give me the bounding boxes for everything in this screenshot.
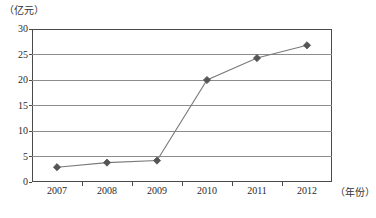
x-axis-tick-label: 2010 <box>187 186 227 196</box>
y-axis-tick-label: 25 <box>2 50 28 60</box>
x-axis-unit-label: （年份） <box>335 184 375 199</box>
x-axis-tick-label: 2011 <box>237 186 277 196</box>
y-axis-tick-label: 10 <box>2 126 28 136</box>
plot-area-frame <box>32 29 332 182</box>
y-axis-tick-label: 20 <box>2 75 28 85</box>
y-axis-tick-label: 30 <box>2 24 28 34</box>
x-axis-tick-label: 2012 <box>287 186 327 196</box>
x-axis-tick-label: 2007 <box>37 186 77 196</box>
y-axis-tick-label: 15 <box>2 101 28 111</box>
y-axis-tick-label: 5 <box>2 152 28 162</box>
x-axis-tick-label: 2008 <box>87 186 127 196</box>
y-axis-unit-label: （亿元） <box>4 2 44 17</box>
x-axis-tick-label: 2009 <box>137 186 177 196</box>
y-axis-tick-label: 0 <box>2 177 28 187</box>
line-chart: （亿元） 051015202530 2007200820092010201120… <box>0 0 376 218</box>
